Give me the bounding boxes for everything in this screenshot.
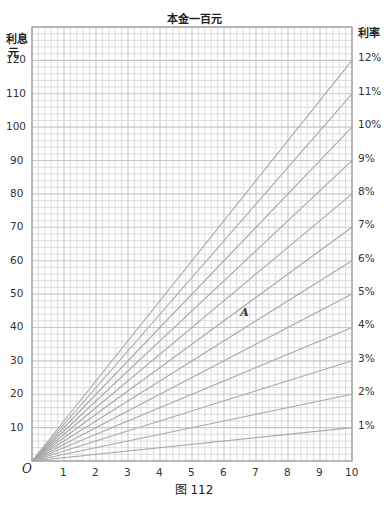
y-tick-70: 70	[10, 220, 23, 232]
rate-label-6pct: 6%	[358, 252, 375, 264]
x-tick-7: 7	[252, 466, 259, 478]
x-tick-1: 1	[60, 466, 67, 478]
rate-label-7pct: 7%	[358, 218, 375, 230]
y-tick-120: 120	[6, 53, 26, 65]
x-tick-6: 6	[220, 466, 227, 478]
chart-plot-area	[0, 0, 388, 505]
rate-label-11pct: 11%	[358, 85, 381, 97]
y-tick-30: 30	[10, 354, 23, 366]
point-label-a: A	[240, 306, 249, 319]
rate-label-4pct: 4%	[358, 318, 375, 330]
rate-label-1pct: 1%	[358, 419, 375, 431]
rate-label-2pct: 2%	[358, 385, 375, 397]
rate-label-5pct: 5%	[358, 285, 375, 297]
x-tick-8: 8	[284, 466, 291, 478]
x-tick-4: 4	[156, 466, 163, 478]
x-tick-10: 10	[345, 466, 358, 478]
y-tick-40: 40	[10, 320, 23, 332]
x-tick-2: 2	[92, 466, 99, 478]
origin-label: O	[22, 462, 32, 476]
rate-label-12pct: 12%	[358, 51, 381, 63]
rate-label-8pct: 8%	[358, 185, 375, 197]
rate-label-9pct: 9%	[358, 152, 375, 164]
y-tick-90: 90	[10, 154, 23, 166]
x-tick-3: 3	[124, 466, 131, 478]
y-tick-100: 100	[6, 120, 26, 132]
y-tick-110: 110	[6, 87, 26, 99]
y-tick-20: 20	[10, 387, 23, 399]
rate-label-3pct: 3%	[358, 352, 375, 364]
x-tick-9: 9	[316, 466, 323, 478]
figure-caption: 图 112	[0, 480, 388, 497]
x-tick-5: 5	[188, 466, 195, 478]
y-tick-60: 60	[10, 254, 23, 266]
y-tick-10: 10	[10, 421, 23, 433]
rate-label-10pct: 10%	[358, 118, 381, 130]
y-tick-80: 80	[10, 187, 23, 199]
y-tick-50: 50	[10, 287, 23, 299]
